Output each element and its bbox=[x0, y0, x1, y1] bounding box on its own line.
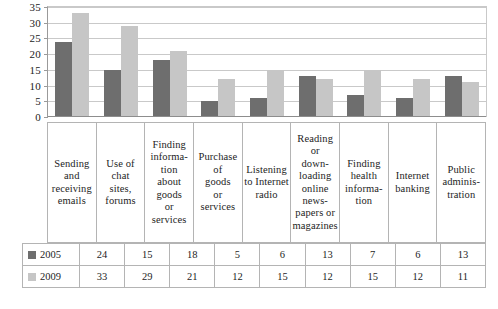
legend-cell-2009: 2009 bbox=[23, 266, 80, 287]
y-axis-tick-label: 25 bbox=[30, 33, 41, 44]
chart-page: 35302520151050 Sendingandreceivingemails… bbox=[0, 0, 498, 309]
legend-cell-2005: 2005 bbox=[23, 244, 80, 265]
category-label-cell: Internetbanking bbox=[389, 123, 438, 242]
bar-group bbox=[389, 7, 438, 117]
category-label-cell: Readingordown-loadingonlinenews-papers o… bbox=[291, 123, 340, 242]
bar-group bbox=[194, 7, 243, 117]
table-cell-value: 13 bbox=[441, 244, 485, 265]
bar-2009 bbox=[170, 51, 187, 117]
category-label-cell: Listeningto Internetradio bbox=[243, 123, 292, 242]
bar-group bbox=[437, 7, 486, 117]
table-cell-value: 6 bbox=[396, 244, 441, 265]
table-cell-value: 24 bbox=[80, 244, 125, 265]
chart-plot-area: 35302520151050 bbox=[0, 6, 498, 122]
bars-layer bbox=[48, 7, 486, 117]
table-cell-value: 12 bbox=[306, 266, 351, 287]
category-label-cell: Findinghealthinforma-tion bbox=[340, 123, 389, 242]
plot-canvas bbox=[47, 6, 487, 117]
category-label-text: Readingordown-loadingonlinenews-papers o… bbox=[293, 133, 338, 232]
legend-label: 2009 bbox=[40, 271, 61, 282]
y-axis-tick-label: 20 bbox=[30, 49, 41, 60]
category-label-text: Listeningto Internetradio bbox=[244, 164, 289, 201]
category-label-text: Sendingandreceivingemails bbox=[52, 158, 92, 208]
bar-2005 bbox=[104, 70, 121, 117]
y-axis-tick-label: 0 bbox=[35, 112, 41, 123]
bar-2005 bbox=[55, 42, 72, 117]
category-label-text: Internetbanking bbox=[395, 170, 430, 195]
category-label-text: Findinginforma-tionaboutgoodsorservices bbox=[150, 139, 188, 226]
bar-2009 bbox=[267, 70, 284, 117]
bar-2009 bbox=[72, 13, 89, 117]
table-cell-value: 13 bbox=[306, 244, 351, 265]
y-axis-tick-label: 30 bbox=[30, 17, 41, 28]
table-cell-value: 15 bbox=[351, 266, 396, 287]
data-table: 2005241518561376132009332921121512151211 bbox=[22, 243, 486, 288]
category-label-text: Publicadminis-tration bbox=[442, 164, 480, 201]
table-cell-value: 6 bbox=[260, 244, 305, 265]
legend-swatch-icon bbox=[28, 251, 36, 259]
bar-2005 bbox=[299, 76, 316, 117]
y-axis: 35302520151050 bbox=[0, 6, 44, 122]
bar-2009 bbox=[462, 82, 479, 117]
y-axis-tick-label: 10 bbox=[30, 80, 41, 91]
bar-group bbox=[340, 7, 389, 117]
bar-2005 bbox=[201, 101, 218, 117]
category-label-cell: Publicadminis-tration bbox=[437, 123, 486, 242]
category-label-cell: Use ofchatsites,forums bbox=[97, 123, 146, 242]
table-cell-value: 12 bbox=[396, 266, 441, 287]
category-label-cell: Sendingandreceivingemails bbox=[48, 123, 97, 242]
bar-2005 bbox=[250, 98, 267, 117]
legend-label: 2005 bbox=[40, 249, 61, 260]
table-cell-value: 29 bbox=[125, 266, 170, 287]
bar-group bbox=[48, 7, 97, 117]
bar-group bbox=[145, 7, 194, 117]
bar-2005 bbox=[153, 60, 170, 117]
category-label-text: Use ofchatsites,forums bbox=[105, 158, 135, 208]
table-cell-value: 7 bbox=[351, 244, 396, 265]
table-cell-value: 15 bbox=[260, 266, 305, 287]
bar-group bbox=[291, 7, 340, 117]
table-cell-value: 21 bbox=[170, 266, 215, 287]
bar-2005 bbox=[347, 95, 364, 117]
table-row: 200524151856137613 bbox=[23, 244, 485, 266]
table-cell-value: 12 bbox=[215, 266, 260, 287]
bar-group bbox=[243, 7, 292, 117]
table-cell-value: 5 bbox=[215, 244, 260, 265]
bar-2009 bbox=[364, 70, 381, 117]
bar-group bbox=[97, 7, 146, 117]
table-cell-value: 11 bbox=[441, 266, 485, 287]
bar-2005 bbox=[396, 98, 413, 117]
y-axis-tick-label: 35 bbox=[30, 2, 41, 13]
y-axis-tick-mark bbox=[44, 117, 48, 118]
table-row: 2009332921121512151211 bbox=[23, 266, 485, 287]
bar-2005 bbox=[445, 76, 462, 117]
category-label-text: Findinghealthinforma-tion bbox=[345, 158, 383, 208]
bar-2009 bbox=[413, 79, 430, 117]
category-label-cell: Purchaseofgoodsorservices bbox=[194, 123, 243, 242]
table-cell-value: 15 bbox=[125, 244, 170, 265]
legend-swatch-icon bbox=[28, 273, 36, 281]
bar-2009 bbox=[121, 26, 138, 117]
table-cell-value: 33 bbox=[80, 266, 125, 287]
y-axis-tick-label: 5 bbox=[35, 96, 41, 107]
category-label-cell: Findinginforma-tionaboutgoodsorservices bbox=[145, 123, 194, 242]
y-axis-tick-label: 15 bbox=[30, 64, 41, 75]
table-cell-value: 18 bbox=[170, 244, 215, 265]
bar-2009 bbox=[316, 79, 333, 117]
bar-2009 bbox=[218, 79, 235, 117]
category-label-table: SendingandreceivingemailsUse ofchatsites… bbox=[47, 122, 486, 243]
axis-baseline bbox=[48, 116, 486, 117]
category-label-text: Purchaseofgoodsorservices bbox=[198, 151, 237, 213]
